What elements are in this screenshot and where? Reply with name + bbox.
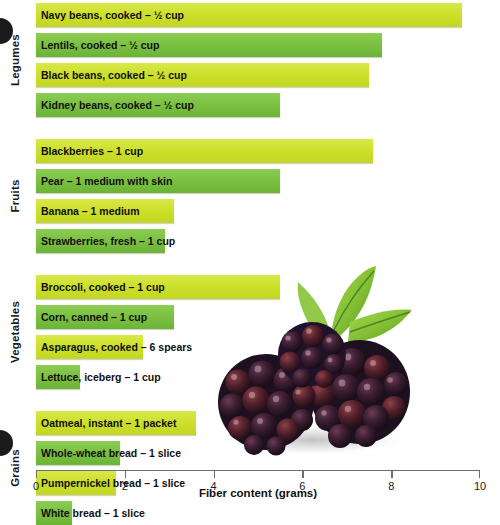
plot-area: Navy beans, cooked – ½ cupLentils, cooke… [36, 0, 480, 470]
bar-label: Lentils, cooked – ½ cup [41, 33, 159, 57]
group-label-legumes: Legumes [9, 5, 21, 115]
bar-label: Pear – 1 medium with skin [41, 169, 172, 193]
bar-label: Strawberries, fresh – 1 cup [41, 229, 175, 253]
x-tick [36, 471, 37, 478]
x-tick [391, 471, 392, 478]
bar-label: Lettuce, iceberg – 1 cup [41, 365, 161, 389]
bar-label: Banana – 1 medium [41, 199, 140, 223]
bar-label: Blackberries – 1 cup [41, 139, 143, 163]
bar-label: Kidney beans, cooked – ½ cup [41, 93, 194, 117]
x-tick [302, 471, 303, 478]
bar-label: Corn, canned – 1 cup [41, 305, 147, 329]
bar-label: Pumpernickel bread – 1 slice [41, 471, 185, 495]
bar-label: Asparagus, cooked – 6 spears [41, 335, 192, 359]
bar-label: Black beans, cooked – ½ cup [41, 63, 187, 87]
bar-label: Broccoli, cooked – 1 cup [41, 275, 165, 299]
group-label-fruits: Fruits [9, 141, 21, 251]
x-tick [214, 471, 215, 478]
x-tick [479, 471, 480, 478]
group-label-grains: Grains [9, 413, 21, 523]
bar-label: Navy beans, cooked – ½ cup [41, 3, 184, 27]
group-label-vegetables: Vegetables [9, 277, 21, 387]
bar-label: White bread – 1 slice [41, 501, 145, 525]
bar-label: Oatmeal, instant – 1 packet [41, 411, 176, 435]
bar-label: Whole-wheat bread – 1 slice [41, 441, 181, 465]
